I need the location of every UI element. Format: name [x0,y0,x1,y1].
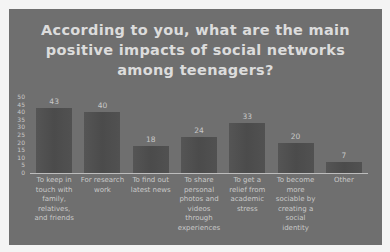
data-label: 24 [181,126,217,135]
chart-title-line-3: among teenagers? [9,60,382,80]
y-tick-label: 15 [17,147,25,153]
y-tick-label: 45 [17,102,25,108]
x-tick-label: To find outlatest news [127,176,175,195]
data-label: 18 [133,135,169,144]
data-label: 20 [278,132,314,141]
plot-area: 4340182433207 [30,97,368,173]
x-tick-label: To sharepersonalphotos andvideosthroughe… [175,176,223,234]
bar [133,146,169,173]
y-tick-label: 35 [17,117,25,123]
bar [181,137,217,173]
y-tick-label: 50 [17,94,25,100]
y-tick-label: 25 [17,132,25,138]
x-tick-label: To get arelief fromacademicstress [223,176,271,214]
data-label: 43 [36,97,72,106]
chart-title-line-1: According to you, what are the main [9,20,382,40]
chart-panel: According to you, what are the main posi… [9,9,382,245]
chart-title: According to you, what are the main posi… [9,20,382,80]
data-label: 33 [229,112,265,121]
bar [326,162,362,173]
y-tick-label: 0 [21,170,25,176]
y-tick-label: 40 [17,109,25,115]
data-label: 7 [326,151,362,160]
data-label: 40 [84,101,120,110]
bar [278,143,314,173]
bar [36,108,72,173]
bar [84,112,120,173]
x-tick-label: Other [320,176,368,186]
x-tick-label: To becomemoresociable bycreating asocial… [272,176,320,234]
x-axis-line [30,173,368,174]
y-tick-label: 5 [21,162,25,168]
y-axis: 05101520253035404550 [13,97,25,173]
y-tick-label: 20 [17,140,25,146]
x-tick-label: To keep intouch withfamily,relatives,and… [30,176,78,224]
y-tick-label: 10 [17,155,25,161]
chart-title-line-2: positive impacts of social networks [9,40,382,60]
bar [229,123,265,173]
x-tick-label: For researchwork [78,176,126,195]
y-tick-label: 30 [17,124,25,130]
